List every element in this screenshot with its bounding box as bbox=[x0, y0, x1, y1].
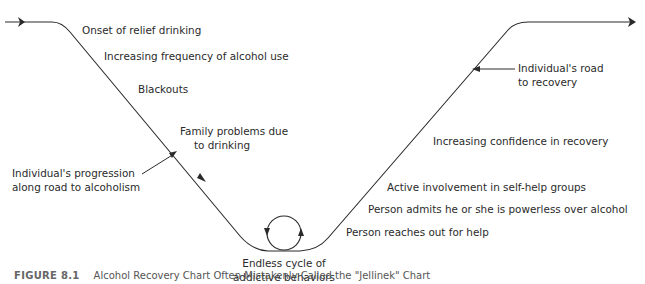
progression-label-line-2: along road to alcoholism bbox=[12, 180, 140, 194]
progression-label: Individual's progression along road to a… bbox=[12, 166, 140, 194]
stage-self-help-groups: Active involvement in self-help groups bbox=[387, 180, 586, 194]
stage-increasing-frequency: Increasing frequency of alcohol use bbox=[104, 49, 289, 63]
stage-family-problems: Family problems due to drinking bbox=[180, 124, 288, 152]
family-problems-line-1: Family problems due bbox=[180, 124, 288, 138]
descending-arrow-icon bbox=[197, 173, 206, 182]
progression-label-line-1: Individual's progression bbox=[12, 166, 140, 180]
recovery-road-label: Individual's road to recovery bbox=[518, 61, 604, 89]
stage-onset-relief-drinking: Onset of relief drinking bbox=[82, 23, 201, 37]
cycle-loop-icon bbox=[264, 216, 304, 250]
stage-reaches-out: Person reaches out for help bbox=[346, 225, 489, 239]
stage-blackouts: Blackouts bbox=[138, 82, 188, 96]
stage-increasing-confidence: Increasing confidence in recovery bbox=[433, 134, 608, 148]
figure-number: FIGURE 8.1 bbox=[14, 270, 80, 281]
figure-caption: FIGURE 8.1Alcohol Recovery Chart Often M… bbox=[14, 270, 430, 281]
endless-cycle-line-1: Endless cycle of bbox=[232, 256, 336, 270]
figure-caption-text: Alcohol Recovery Chart Often Mistakenly … bbox=[94, 270, 431, 281]
progression-pointer-arrow-icon bbox=[142, 151, 177, 174]
recovery-road-line-1: Individual's road bbox=[518, 61, 604, 75]
recovery-pointer-arrow-icon bbox=[472, 66, 515, 72]
start-arrow-icon bbox=[5, 17, 52, 27]
stage-admits-powerless: Person admits he or she is powerless ove… bbox=[368, 202, 628, 216]
recovery-road-line-2: to recovery bbox=[518, 75, 604, 89]
family-problems-line-2: to drinking bbox=[180, 138, 288, 152]
